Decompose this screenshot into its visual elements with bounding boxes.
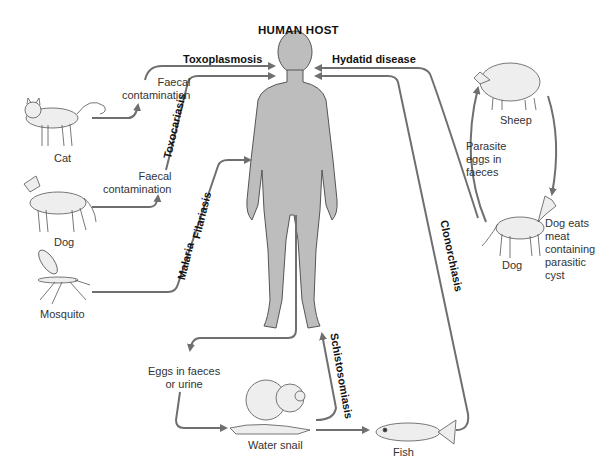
label-toxoplasmosis: Toxoplasmosis xyxy=(183,53,262,66)
note-dog-eats-line1: Dog eats xyxy=(545,217,595,230)
note-dog-eats-line3: containing xyxy=(545,243,595,256)
note-parasite-eggs-line1: Parasite xyxy=(466,140,506,153)
label-dog-left: Dog xyxy=(54,236,74,249)
sheep-icon xyxy=(474,63,540,110)
note-cat-faecal-line2: contamination xyxy=(122,89,191,102)
label-fish: Fish xyxy=(393,446,414,459)
arrow-hydatid xyxy=(316,68,478,218)
water-snail-icon xyxy=(230,380,310,434)
note-dog-faecal: Faecal contamination xyxy=(103,170,172,196)
note-eggs-faeces-line2: or urine xyxy=(148,378,220,391)
note-dog-faecal-line2: contamination xyxy=(103,183,172,196)
note-cat-faecal-line1: Faecal xyxy=(122,76,191,89)
note-eggs-faeces: Eggs in faeces or urine xyxy=(148,365,220,391)
note-eggs-faeces-line1: Eggs in faeces xyxy=(148,365,220,378)
diagram-canvas xyxy=(0,0,611,473)
arrow-eggs-to-snail xyxy=(176,392,226,428)
note-parasite-eggs-line3: faeces xyxy=(466,166,506,179)
note-cat-faecal: Faecal contamination xyxy=(122,76,191,102)
page-title: HUMAN HOST xyxy=(258,24,339,37)
label-water-snail: Water snail xyxy=(248,439,303,452)
note-dog-eats-line2: meat xyxy=(545,230,595,243)
cat-icon xyxy=(25,98,105,146)
note-dog-faecal-line1: Faecal xyxy=(103,170,172,183)
arrow-dog-faecal xyxy=(92,196,158,207)
label-hydatid-disease: Hydatid disease xyxy=(332,53,416,66)
dog-left-icon xyxy=(24,176,96,232)
note-dog-eats-line4: parasitic xyxy=(545,256,595,269)
label-cat: Cat xyxy=(54,152,71,165)
note-parasite-eggs-line2: eggs in xyxy=(466,153,506,166)
arrow-cat-faecal xyxy=(92,105,138,118)
label-sheep: Sheep xyxy=(500,114,532,127)
label-mosquito: Mosquito xyxy=(40,308,85,321)
note-dog-eats-line5: cyst xyxy=(545,269,595,282)
mosquito-icon xyxy=(35,247,90,304)
fish-icon xyxy=(376,420,456,444)
note-dog-eats: Dog eats meat containing parasitic cyst xyxy=(545,217,595,282)
label-dog-right: Dog xyxy=(502,259,522,272)
arrow-sheep-to-dog xyxy=(548,96,556,194)
note-parasite-eggs: Parasite eggs in faeces xyxy=(466,140,506,179)
